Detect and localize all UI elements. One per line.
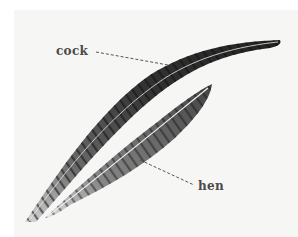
hen-leader-line bbox=[140, 160, 194, 185]
feathers-illustration bbox=[0, 0, 298, 237]
cock-label: cock bbox=[56, 45, 88, 57]
photo-frame: cock hen bbox=[0, 0, 298, 237]
hen-label: hen bbox=[198, 180, 224, 192]
cock-leader-line bbox=[96, 52, 168, 65]
